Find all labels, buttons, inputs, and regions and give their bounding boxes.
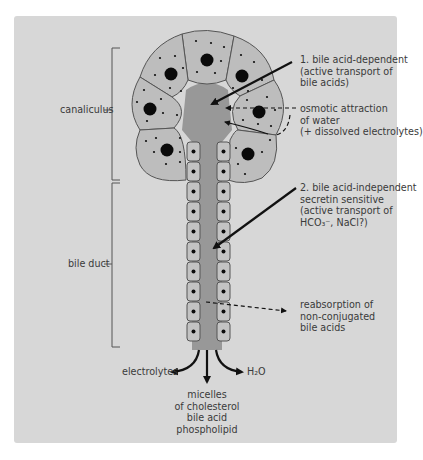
bile-acid-independent-annotation: 2. bile acid-independent secretin sensit…	[300, 182, 417, 228]
osmotic-annotation: osmotic attraction of water (+ dissolved…	[300, 103, 423, 138]
bile-duct-bracket	[112, 183, 120, 347]
reabsorption-annotation: reabsorption of non-conjugated bile acid…	[300, 299, 375, 334]
canaliculus-label: canaliculus	[60, 104, 114, 116]
bile-duct-label: bile duct	[68, 258, 110, 270]
bile-acid-dependent-annotation: 1. bile acid-dependent (active transport…	[300, 54, 408, 89]
water-label: H₂O	[247, 366, 266, 378]
brackets	[104, 48, 120, 347]
micelles-label: micelles of cholesterol bile acid phosph…	[157, 389, 257, 435]
hepatocyte-lower-left	[136, 128, 186, 181]
water-arrow	[216, 350, 242, 372]
electrolytes-label: electrolytes	[122, 366, 178, 378]
